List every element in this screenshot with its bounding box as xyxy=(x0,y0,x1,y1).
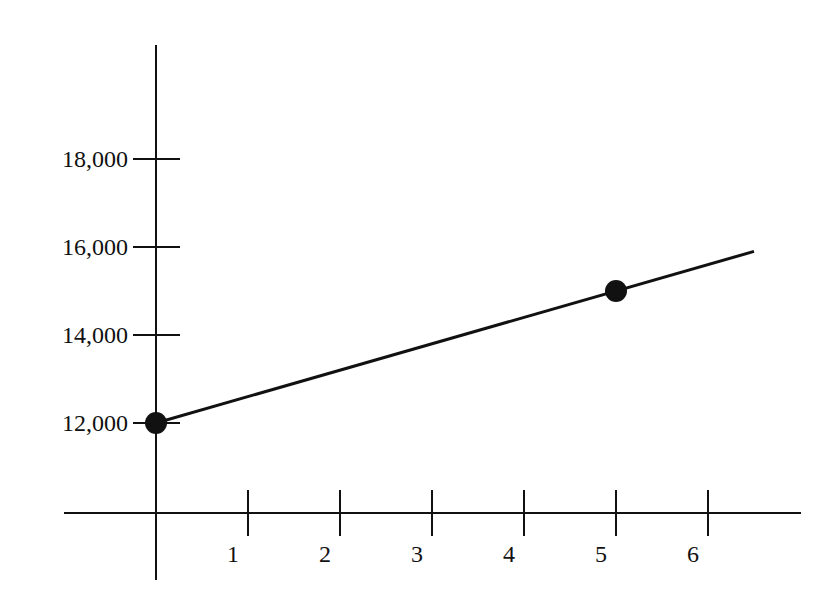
x-tick-label: 3 xyxy=(411,541,423,567)
x-tick-label: 4 xyxy=(503,541,515,567)
x-tick-label: 1 xyxy=(227,541,239,567)
data-point-marker xyxy=(145,412,167,434)
x-ticks: 123456 xyxy=(227,490,708,567)
y-tick-label: 18,000 xyxy=(62,146,128,172)
y-ticks: 12,00014,00016,00018,000 xyxy=(62,146,180,436)
data-series xyxy=(156,251,754,423)
series-line xyxy=(156,251,754,423)
x-tick-label: 6 xyxy=(687,541,699,567)
y-tick-label: 12,000 xyxy=(62,410,128,436)
y-tick-label: 14,000 xyxy=(62,322,128,348)
line-chart: 12,00014,00016,00018,000 123456 xyxy=(0,0,833,614)
y-tick-label: 16,000 xyxy=(62,234,128,260)
data-point-marker xyxy=(605,280,627,302)
x-tick-label: 2 xyxy=(319,541,331,567)
x-tick-label: 5 xyxy=(595,541,607,567)
